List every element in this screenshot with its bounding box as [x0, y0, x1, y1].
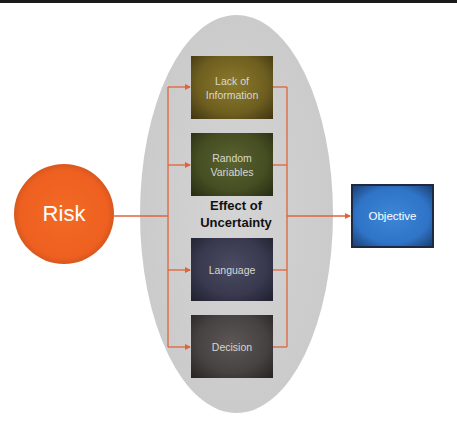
group-label-line2: Uncertainty	[190, 214, 282, 231]
factor-label-line1: Decision	[212, 340, 252, 354]
factor-label-line1: Lack of	[206, 74, 259, 88]
objective-label: Objective	[369, 210, 417, 222]
factor-label-line1: Random	[211, 151, 254, 165]
factor-decision: Decision	[191, 315, 273, 378]
factor-label-line1: Language	[209, 263, 256, 277]
effect-of-uncertainty-label: Effect of Uncertainty	[190, 197, 282, 231]
objective-node: Objective	[351, 184, 434, 248]
group-label-line1: Effect of	[190, 197, 282, 214]
factor-label-line2: Information	[206, 88, 259, 102]
factor-lack-of-information: Lack of Information	[191, 56, 273, 119]
factor-label-line2: Variables	[211, 165, 254, 179]
factor-random-variables: Random Variables	[191, 133, 273, 196]
factor-language: Language	[191, 238, 273, 301]
risk-label: Risk	[43, 201, 86, 227]
risk-node: Risk	[14, 164, 114, 264]
